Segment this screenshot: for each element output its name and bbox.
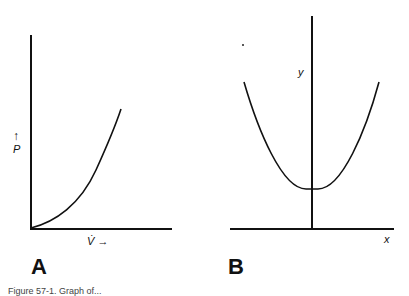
panel-a-curve	[31, 109, 121, 228]
panel-a-plot	[30, 35, 172, 230]
panel-a-y-axis-label: P	[13, 144, 20, 155]
panel-a-y-arrow-icon: ↑	[13, 131, 19, 142]
panel-a-label: A	[31, 256, 47, 278]
stray-mark	[242, 44, 244, 46]
panel-b-y-axis-label: y	[298, 67, 304, 78]
figure-caption: Figure 57-1. Graph of...	[8, 286, 102, 296]
panel-a-x-axis-label: V̇ →	[87, 236, 108, 247]
panel-b-label: B	[228, 256, 244, 278]
panel-b-plot	[230, 16, 394, 230]
panel-b-x-axis-label: x	[384, 234, 390, 245]
